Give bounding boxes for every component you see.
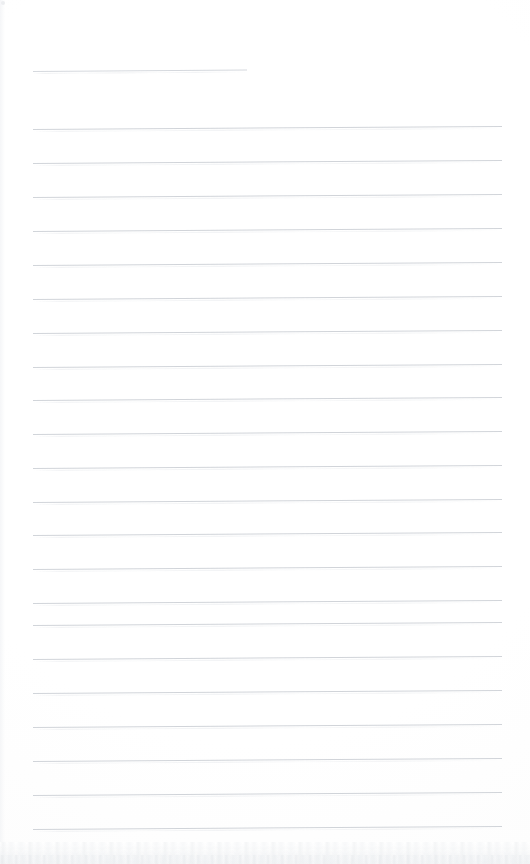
rule-line: [33, 397, 502, 401]
rule-line: [33, 499, 502, 503]
rule-line: [33, 330, 502, 334]
rule-line: [33, 431, 502, 435]
rule-line: [33, 600, 502, 604]
rule-line: [33, 690, 502, 694]
rule-line: [33, 296, 502, 300]
bottom-edge-scan-texture: [0, 842, 530, 864]
rule-line: [33, 724, 502, 728]
rule-line: [33, 70, 247, 72]
rule-line: [33, 622, 502, 626]
rule-line: [33, 758, 502, 762]
rule-line: [33, 126, 502, 130]
rule-line: [33, 262, 502, 266]
rule-line: [33, 465, 502, 469]
scanned-page: [0, 0, 530, 864]
rule-line: [33, 792, 502, 796]
rule-line: [33, 826, 502, 830]
rule-line: [33, 228, 502, 232]
ruled-lines-group: [0, 0, 530, 864]
rule-line: [33, 566, 502, 570]
rule-line: [33, 160, 502, 164]
rule-line: [33, 364, 502, 368]
rule-line: [33, 532, 502, 536]
rule-line: [33, 656, 502, 660]
rule-line: [33, 194, 502, 198]
